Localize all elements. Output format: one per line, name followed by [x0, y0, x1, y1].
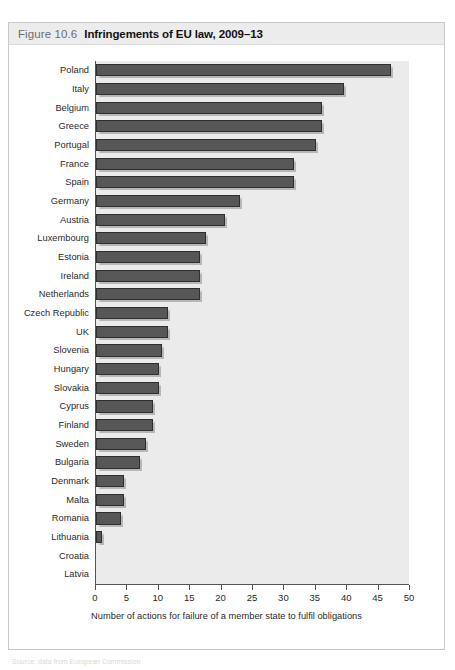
bar-row: [96, 416, 409, 435]
bar-portugal: [96, 139, 316, 151]
x-tick-35: [315, 585, 316, 590]
bar-czech-republic: [96, 307, 168, 319]
bar-ireland: [96, 270, 200, 282]
bar-row: [96, 378, 409, 397]
bar-slovenia: [96, 344, 162, 356]
x-tick-20: [221, 585, 222, 590]
bar-row: [96, 322, 409, 341]
y-label-lithuania: Lithuania: [9, 528, 93, 547]
bar-spain: [96, 176, 294, 188]
figure-number: Figure 10.6: [18, 28, 77, 40]
bar-estonia: [96, 251, 200, 263]
bar-netherlands: [96, 288, 200, 300]
bar-lithuania: [96, 531, 102, 543]
y-label-poland: Poland: [9, 61, 93, 80]
y-label-spain: Spain: [9, 173, 93, 192]
chart-area: PolandItalyBelgiumGreecePortugalFranceSp…: [9, 45, 444, 649]
x-tick-40: [346, 585, 347, 590]
x-tick-5: [126, 585, 127, 590]
bar-row: [96, 304, 409, 323]
x-tick-label-0: 0: [92, 592, 97, 603]
x-tick-30: [283, 585, 284, 590]
bar-row: [96, 61, 409, 80]
bar-france: [96, 158, 294, 170]
x-axis-title: Number of actions for failure of a membe…: [9, 611, 444, 621]
y-label-slovenia: Slovenia: [9, 341, 93, 360]
source-note: Source: data from European Commission: [12, 658, 442, 667]
y-label-portugal: Portugal: [9, 136, 93, 155]
y-label-italy: Italy: [9, 80, 93, 99]
y-label-finland: Finland: [9, 416, 93, 435]
bar-row: [96, 528, 409, 547]
y-label-malta: Malta: [9, 490, 93, 509]
y-label-cyprus: Cyprus: [9, 397, 93, 416]
y-label-latvia: Latvia: [9, 565, 93, 584]
bar-cyprus: [96, 400, 153, 412]
bar-sweden: [96, 438, 146, 450]
bar-row: [96, 173, 409, 192]
y-label-bulgaria: Bulgaria: [9, 453, 93, 472]
x-tick-25: [252, 585, 253, 590]
y-label-hungary: Hungary: [9, 360, 93, 379]
bar-romania: [96, 512, 121, 524]
bar-greece: [96, 120, 322, 132]
bar-uk: [96, 326, 168, 338]
y-label-romania: Romania: [9, 509, 93, 528]
x-tick-label-20: 20: [215, 592, 226, 603]
x-tick-45: [378, 585, 379, 590]
bar-italy: [96, 83, 344, 95]
y-label-croatia: Croatia: [9, 546, 93, 565]
y-label-netherlands: Netherlands: [9, 285, 93, 304]
bar-hungary: [96, 363, 159, 375]
bar-row: [96, 229, 409, 248]
x-tick-label-35: 35: [310, 592, 321, 603]
x-tick-label-25: 25: [247, 592, 258, 603]
y-label-slovakia: Slovakia: [9, 378, 93, 397]
bar-bulgaria: [96, 456, 140, 468]
y-label-czech-republic: Czech Republic: [9, 304, 93, 323]
y-label-belgium: Belgium: [9, 98, 93, 117]
x-tick-label-30: 30: [278, 592, 289, 603]
y-label-denmark: Denmark: [9, 472, 93, 491]
bar-row: [96, 472, 409, 491]
figure-container: Figure 10.6 Infringements of EU law, 200…: [8, 22, 445, 650]
y-label-ireland: Ireland: [9, 266, 93, 285]
y-label-france: France: [9, 154, 93, 173]
bar-row: [96, 453, 409, 472]
x-tick-label-50: 50: [404, 592, 415, 603]
bar-row: [96, 154, 409, 173]
bar-row: [96, 565, 409, 584]
bar-row: [96, 117, 409, 136]
bar-row: [96, 136, 409, 155]
x-tick-50: [409, 585, 410, 590]
figure-title: Infringements of EU law, 2009–13: [84, 28, 263, 40]
x-tick-10: [158, 585, 159, 590]
bar-luxembourg: [96, 232, 206, 244]
plot-area: [95, 61, 409, 584]
bar-row: [96, 546, 409, 565]
bar-denmark: [96, 475, 124, 487]
bar-row: [96, 248, 409, 267]
x-tick-label-10: 10: [153, 592, 164, 603]
y-label-austria: Austria: [9, 210, 93, 229]
x-tick-label-40: 40: [341, 592, 352, 603]
bar-row: [96, 434, 409, 453]
bar-austria: [96, 214, 225, 226]
y-label-germany: Germany: [9, 192, 93, 211]
bar-row: [96, 490, 409, 509]
bar-row: [96, 210, 409, 229]
bar-finland: [96, 419, 153, 431]
bar-row: [96, 509, 409, 528]
bar-row: [96, 397, 409, 416]
bar-belgium: [96, 102, 322, 114]
y-label-luxembourg: Luxembourg: [9, 229, 93, 248]
bar-row: [96, 80, 409, 99]
bar-poland: [96, 64, 391, 76]
bar-series: [96, 61, 409, 584]
x-tick-15: [189, 585, 190, 590]
x-tick-label-15: 15: [184, 592, 195, 603]
y-label-sweden: Sweden: [9, 434, 93, 453]
bar-germany: [96, 195, 240, 207]
y-axis-category-labels: PolandItalyBelgiumGreecePortugalFranceSp…: [9, 61, 93, 584]
bar-row: [96, 192, 409, 211]
